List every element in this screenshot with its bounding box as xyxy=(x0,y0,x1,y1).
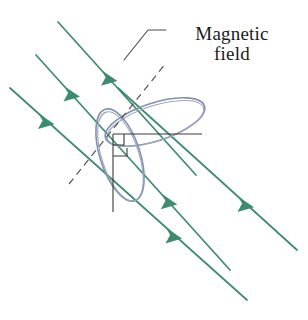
wire-coil-group xyxy=(86,88,210,207)
magnetic-field-label-line1: Magnetic xyxy=(167,24,297,44)
label-leader-line xyxy=(124,30,166,60)
coil-lobe2-outer-ellipse xyxy=(86,103,154,207)
dashed-normal-line xyxy=(69,63,166,184)
coil-lower-left-lobe xyxy=(86,103,154,207)
field-line-2-arrowhead-2 xyxy=(161,194,178,210)
field-line-1-arrowhead xyxy=(101,70,118,86)
field-line-3-arrowhead-2 xyxy=(166,228,183,244)
field-line-3-arrowhead xyxy=(38,114,55,130)
field-line-4-shaft xyxy=(118,88,297,250)
field-line-3 xyxy=(10,88,247,300)
magnetic-field-label-line2: field xyxy=(167,44,297,64)
field-line-4 xyxy=(118,88,297,250)
magnetic-field-label: Magnetic field xyxy=(167,24,297,64)
field-line-2-arrowhead xyxy=(64,86,81,102)
figure-root: Magnetic field xyxy=(0,0,308,320)
